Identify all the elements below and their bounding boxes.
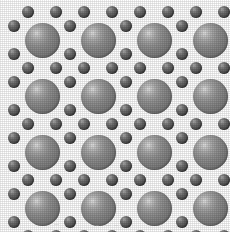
small-atom — [176, 20, 188, 32]
small-atom — [78, 230, 90, 232]
small-atom — [190, 118, 202, 130]
small-atom — [218, 62, 230, 74]
large-atom — [137, 191, 172, 226]
small-atom — [162, 62, 174, 74]
small-atom — [64, 216, 76, 228]
small-atom — [8, 160, 20, 172]
small-atom — [106, 174, 118, 186]
small-atom — [50, 62, 62, 74]
small-atom — [64, 188, 76, 200]
small-atom — [134, 62, 146, 74]
large-atom — [137, 79, 172, 114]
small-atom — [120, 76, 132, 88]
small-atom — [218, 230, 230, 232]
small-atom — [22, 6, 34, 18]
small-atom — [78, 118, 90, 130]
small-atom — [8, 48, 20, 60]
small-atom — [8, 20, 20, 32]
small-atom — [162, 230, 174, 232]
small-atom — [218, 6, 230, 18]
small-atom — [50, 230, 62, 232]
small-atom — [78, 174, 90, 186]
small-atom — [64, 160, 76, 172]
small-atom — [190, 174, 202, 186]
small-atom — [120, 20, 132, 32]
small-atom — [218, 174, 230, 186]
small-atom — [176, 132, 188, 144]
small-atom — [176, 48, 188, 60]
small-atom — [78, 62, 90, 74]
small-atom — [22, 230, 34, 232]
small-atom — [176, 216, 188, 228]
small-atom — [190, 230, 202, 232]
large-atom — [193, 191, 228, 226]
small-atom — [8, 216, 20, 228]
crystal-lattice-figure — [0, 0, 230, 232]
small-atom — [64, 48, 76, 60]
small-atom — [176, 188, 188, 200]
small-atom — [190, 62, 202, 74]
small-atom — [8, 132, 20, 144]
small-atom — [162, 6, 174, 18]
small-atom — [120, 216, 132, 228]
small-atom — [120, 160, 132, 172]
small-atom — [120, 104, 132, 116]
small-atom — [162, 118, 174, 130]
small-atom — [134, 6, 146, 18]
large-atom — [25, 191, 60, 226]
large-atom — [193, 79, 228, 114]
small-atom — [64, 132, 76, 144]
large-atom — [25, 135, 60, 170]
small-atom — [106, 62, 118, 74]
small-atom — [106, 6, 118, 18]
small-atom — [190, 6, 202, 18]
small-atom — [134, 230, 146, 232]
small-atom — [64, 20, 76, 32]
small-atom — [176, 160, 188, 172]
small-atom — [106, 230, 118, 232]
large-atom — [81, 135, 116, 170]
small-atom — [64, 76, 76, 88]
large-atom — [137, 135, 172, 170]
large-atom — [25, 79, 60, 114]
small-atom — [64, 104, 76, 116]
large-atom — [81, 23, 116, 58]
small-atom — [176, 76, 188, 88]
lattice-sphere-layer — [0, 0, 230, 232]
small-atom — [50, 174, 62, 186]
small-atom — [134, 118, 146, 130]
large-atom — [25, 23, 60, 58]
large-atom — [81, 79, 116, 114]
small-atom — [106, 118, 118, 130]
small-atom — [22, 118, 34, 130]
small-atom — [8, 76, 20, 88]
small-atom — [78, 6, 90, 18]
large-atom — [193, 135, 228, 170]
small-atom — [134, 174, 146, 186]
small-atom — [8, 104, 20, 116]
small-atom — [162, 174, 174, 186]
small-atom — [22, 62, 34, 74]
large-atom — [193, 23, 228, 58]
small-atom — [120, 132, 132, 144]
large-atom — [137, 23, 172, 58]
small-atom — [218, 118, 230, 130]
small-atom — [50, 6, 62, 18]
large-atom — [81, 191, 116, 226]
small-atom — [8, 188, 20, 200]
small-atom — [176, 104, 188, 116]
small-atom — [22, 174, 34, 186]
small-atom — [50, 118, 62, 130]
small-atom — [120, 188, 132, 200]
small-atom — [120, 48, 132, 60]
